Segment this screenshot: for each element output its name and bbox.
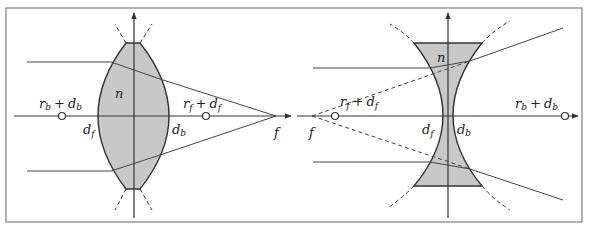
label-rf-df-left: rf+df	[183, 96, 223, 113]
center-rb-db-marker	[59, 113, 66, 120]
curvature-dash-top-left-right	[390, 24, 414, 43]
curvature-dash-top-right-right	[482, 21, 510, 43]
lens-diagram: rb+db rf+df n df db f	[0, 0, 589, 227]
left-panel-converging-lens: rb+db rf+df n df db f	[14, 13, 291, 218]
right-panel-diverging-lens: rf+df rb+db n df db f	[297, 13, 578, 218]
label-rb-db-left: rb+db	[39, 96, 82, 112]
label-rb-db-right: rb+db	[515, 96, 558, 112]
curvature-dash-top-left	[115, 24, 126, 43]
curvature-dash-bottom-right	[140, 189, 152, 210]
label-n-left: n	[115, 86, 123, 101]
center-rf-df-marker-right	[332, 113, 339, 120]
label-df-left: df	[83, 122, 96, 139]
center-rf-df-marker	[203, 113, 210, 120]
label-db-right: db	[457, 122, 471, 138]
label-df-right: df	[422, 122, 435, 139]
label-db-left: db	[172, 122, 186, 138]
curvature-dash-bottom-left-right	[388, 186, 414, 208]
center-rb-db-marker-right	[562, 113, 569, 120]
label-rf-df-right: rf+df	[340, 94, 380, 111]
curvature-dash-bottom-right-right	[482, 186, 510, 210]
curvature-dash-top-right	[140, 24, 152, 43]
curvature-dash-bottom-left	[115, 189, 126, 210]
figure-border	[6, 8, 582, 222]
label-n-right: n	[437, 50, 445, 65]
label-f-left: f	[273, 125, 281, 140]
label-f-right: f	[308, 125, 316, 140]
